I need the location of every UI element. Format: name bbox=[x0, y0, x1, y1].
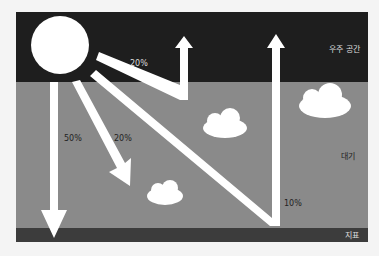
ground-layer bbox=[16, 228, 368, 242]
label-atmosphere: 대기 bbox=[341, 152, 355, 161]
label-50: 50% bbox=[64, 134, 82, 143]
label-20-space: 20% bbox=[130, 59, 148, 68]
sun-icon bbox=[31, 16, 89, 74]
label-ground: 지표 bbox=[345, 231, 359, 240]
solar-radiation-diagram: 20% 50% 20% 10% 우주 공간 대기 지표 bbox=[0, 0, 379, 256]
label-space: 우주 공간 bbox=[329, 44, 361, 54]
label-10: 10% bbox=[284, 199, 302, 208]
label-20-cloud: 20% bbox=[114, 134, 132, 143]
